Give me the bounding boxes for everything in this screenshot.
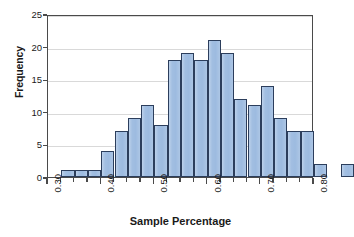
x-axis-minor-tick xyxy=(246,178,247,182)
x-axis-minor-tick xyxy=(73,178,74,182)
histogram-bar xyxy=(115,131,128,177)
x-axis-minor-tick xyxy=(179,178,180,182)
x-axis-tick-label: 0.50 xyxy=(158,174,169,208)
x-axis-major-tick xyxy=(259,178,260,184)
x-axis-minor-tick xyxy=(126,178,127,182)
y-axis-tick-label: 20 xyxy=(20,42,42,53)
histogram-bar xyxy=(301,131,314,177)
x-axis-minor-tick xyxy=(233,178,234,182)
x-axis-minor-tick xyxy=(286,178,287,182)
x-axis-tick-label: 0.30 xyxy=(52,174,63,208)
y-axis-tick-label: 10 xyxy=(20,107,42,118)
x-axis-tick-label: 0.40 xyxy=(105,174,116,208)
x-axis-minor-tick xyxy=(139,178,140,182)
histogram-bar xyxy=(154,125,167,177)
plot-inner xyxy=(48,16,312,177)
x-axis-tick-label: 0.70 xyxy=(265,174,276,208)
x-axis-major-tick xyxy=(46,178,47,184)
y-axis-tick-label: 0 xyxy=(20,172,42,183)
x-axis-minor-tick xyxy=(193,178,194,182)
histogram-bar xyxy=(234,99,247,177)
histogram-bar xyxy=(341,164,354,177)
histogram-bar xyxy=(274,118,287,177)
histogram-bar xyxy=(141,105,154,177)
x-axis-major-tick xyxy=(312,178,313,184)
histogram-bar xyxy=(168,60,181,177)
y-axis-tick-label: 5 xyxy=(20,139,42,150)
y-axis-tick-label: 25 xyxy=(20,9,42,20)
histogram-bar xyxy=(194,60,207,177)
x-axis-tick-label: 0.60 xyxy=(212,174,223,208)
x-axis-major-tick xyxy=(206,178,207,184)
histogram-bars xyxy=(48,16,312,177)
x-axis-minor-tick xyxy=(299,178,300,182)
histogram-bar xyxy=(128,118,141,177)
x-axis-major-tick xyxy=(100,178,101,184)
histogram-bar xyxy=(261,86,274,177)
histogram-bar xyxy=(75,170,88,177)
histogram-bar xyxy=(287,131,300,177)
histogram-bar xyxy=(181,53,194,177)
x-axis-title: Sample Percentage xyxy=(47,215,314,227)
histogram-bar xyxy=(248,105,261,177)
histogram-bar xyxy=(61,170,74,177)
x-axis-minor-tick xyxy=(86,178,87,182)
y-axis-tick-label: 15 xyxy=(20,74,42,85)
plot-area xyxy=(47,15,313,178)
histogram-bar xyxy=(208,40,221,177)
histogram-bar xyxy=(88,170,101,177)
histogram-bar xyxy=(221,53,234,177)
x-axis-tick-label: 0.80 xyxy=(318,174,329,208)
x-axis-major-tick xyxy=(153,178,154,184)
